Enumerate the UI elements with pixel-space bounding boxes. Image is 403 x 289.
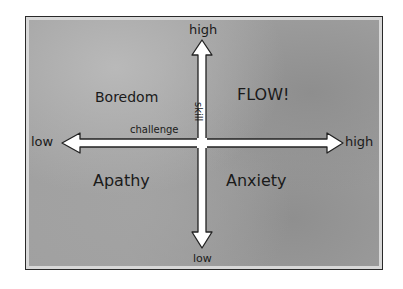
y-axis-high-label: high — [189, 22, 217, 37]
y-axis-low-label: low — [193, 252, 212, 265]
quadrant-anxiety: Anxiety — [226, 171, 287, 190]
x-axis-name: challenge — [130, 124, 179, 135]
axes-arrows — [0, 0, 403, 289]
quadrant-apathy: Apathy — [93, 171, 150, 190]
x-axis-low-label: low — [31, 134, 53, 149]
quadrant-boredom: Boredom — [95, 89, 158, 105]
quadrant-flow: FLOW! — [237, 85, 289, 104]
y-axis-name: skill — [193, 102, 204, 121]
x-axis-high-label: high — [345, 134, 373, 149]
